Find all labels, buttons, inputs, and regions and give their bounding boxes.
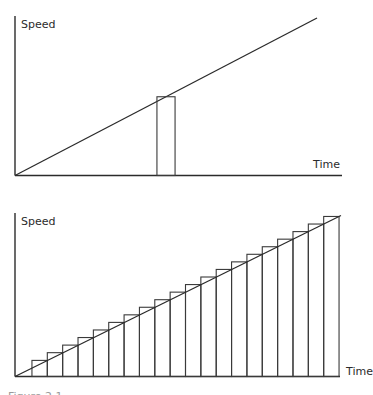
step-bar (308, 224, 323, 376)
step-bar (124, 315, 139, 377)
step-bar (109, 322, 124, 376)
bottom-ylabel: Speed (21, 215, 55, 228)
step-bar (232, 262, 247, 377)
step-bar (32, 360, 47, 376)
top-ylabel: Speed (21, 18, 55, 31)
step-bar (278, 239, 293, 376)
step-bar (78, 338, 93, 377)
top-xlabel: Time (312, 158, 340, 171)
time-slice-rect (157, 97, 175, 176)
speed-time-figure: Speed Time Speed Time Figure 2.1 (0, 0, 373, 395)
step-bar (262, 247, 277, 377)
bottom-chart: Speed Time (15, 213, 373, 378)
figure-caption: Figure 2.1 (8, 390, 63, 395)
step-bar (155, 300, 170, 377)
step-bar (170, 292, 185, 376)
speed-line (15, 216, 341, 377)
step-bar (324, 216, 339, 376)
step-bar (185, 285, 200, 377)
step-bar (201, 277, 216, 376)
step-bar (139, 307, 154, 376)
step-bar (247, 254, 262, 376)
top-chart: Speed Time (15, 16, 342, 176)
bottom-xlabel: Time (345, 365, 373, 378)
step-bar (293, 232, 308, 377)
step-bar (216, 269, 231, 376)
